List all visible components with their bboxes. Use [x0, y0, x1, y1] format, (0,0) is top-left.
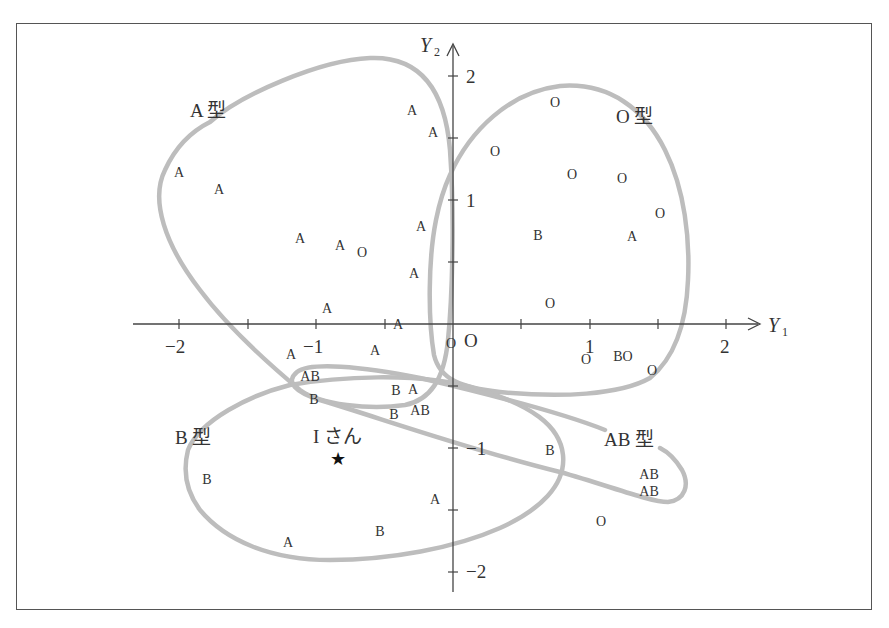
group-contours	[159, 58, 688, 560]
data-point-ab: AB	[639, 484, 658, 499]
data-point-a: A	[286, 347, 297, 362]
star-icon: ★	[330, 448, 346, 469]
scatter-plot: −2 −1 1 2 2 1 −1 −2 O Y 1 Y 2 A 型 O 型 B …	[0, 0, 889, 628]
data-point-a: A	[322, 301, 333, 316]
data-point-a: A	[335, 238, 346, 253]
y-tick-label: 2	[466, 66, 476, 87]
data-point-o: O	[655, 206, 665, 221]
data-point-ab: AB	[639, 467, 658, 482]
data-point-b: B	[202, 472, 211, 487]
data-point-b: B	[389, 407, 398, 422]
data-point-a: A	[393, 317, 404, 332]
data-point-a: A	[627, 229, 638, 244]
data-point-a: A	[416, 219, 427, 234]
data-point-o: O	[596, 514, 606, 529]
group-label-b: B 型	[175, 427, 211, 448]
data-point-o: O	[617, 171, 627, 186]
data-point-a: A	[430, 492, 441, 507]
y-tick-label: −2	[466, 561, 486, 582]
group-label-o: O 型	[616, 106, 653, 127]
data-point-ab: AB	[410, 403, 429, 418]
data-point-bo: BO	[613, 349, 632, 364]
x-tick-label: −2	[165, 336, 185, 357]
data-point-b: B	[391, 383, 400, 398]
data-point-a: A	[428, 125, 439, 140]
data-point-o: O	[581, 352, 591, 367]
data-point-a: A	[214, 182, 225, 197]
person-annotation: I さん ★	[313, 426, 362, 469]
x-tick-label: 2	[720, 336, 730, 357]
data-point-a: A	[409, 266, 420, 281]
data-point-o: O	[567, 167, 577, 182]
x-tick-label: −1	[303, 336, 323, 357]
x-axis-title-sub: 1	[782, 325, 788, 339]
data-point-o: O	[545, 296, 555, 311]
y-tick-label: 1	[466, 190, 476, 211]
y-tick-label: −1	[466, 438, 486, 459]
data-point-b: B	[309, 392, 318, 407]
data-point-a: A	[408, 382, 419, 397]
person-label: I さん	[313, 426, 362, 447]
data-point-o: O	[446, 336, 456, 351]
data-point-o: O	[490, 144, 500, 159]
data-point-a: A	[295, 231, 306, 246]
data-point-a: A	[370, 343, 381, 358]
data-point-b: B	[545, 443, 554, 458]
data-point-ab: AB	[300, 369, 319, 384]
data-point-o: O	[357, 245, 367, 260]
y-axis-title-sub: 2	[434, 45, 440, 59]
data-point-a: A	[407, 103, 418, 118]
data-point-o: O	[550, 95, 560, 110]
data-point-a: A	[283, 535, 294, 550]
data-point-b: B	[533, 228, 542, 243]
y-axis-title: Y	[420, 34, 433, 56]
data-point-b: B	[375, 524, 384, 539]
origin-label: O	[464, 330, 478, 351]
group-label-a: A 型	[190, 100, 226, 121]
data-point-o: O	[647, 363, 657, 378]
group-label-ab: AB 型	[604, 429, 654, 450]
x-axis-title: Y	[768, 314, 781, 336]
data-point-a: A	[174, 165, 185, 180]
